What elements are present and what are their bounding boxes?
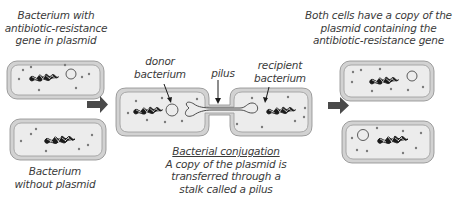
conjugating-cells: [116, 88, 312, 136]
diagram-graphics: [0, 0, 457, 207]
cell-without-plasmid: [10, 119, 106, 160]
cell-with-plasmid: [7, 61, 104, 99]
result-cell-donor: [340, 61, 434, 101]
result-cell-recipient: [342, 121, 434, 163]
